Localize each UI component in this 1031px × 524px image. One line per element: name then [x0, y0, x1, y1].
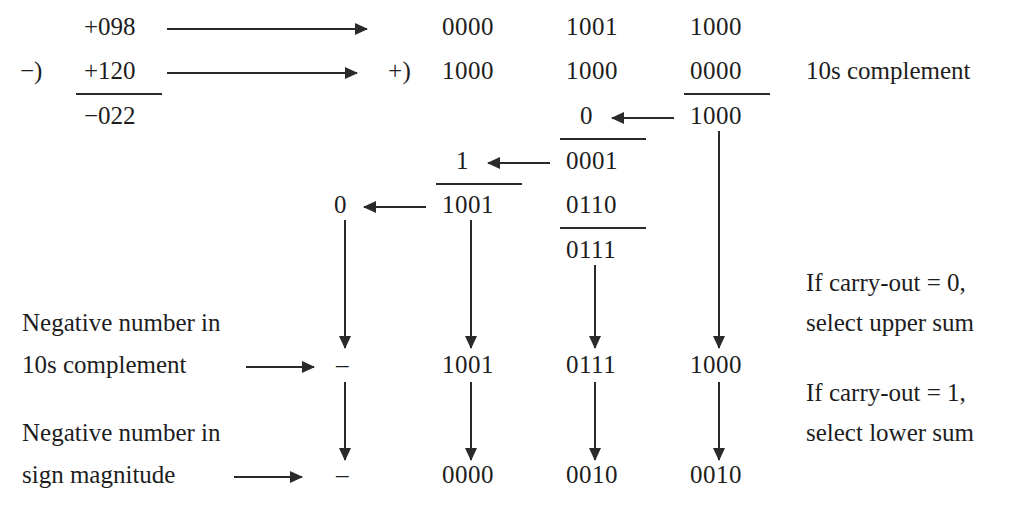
- decimal-subtrahend: +120: [84, 58, 136, 83]
- flow-arrow-sign-to-10s: [344, 220, 346, 348]
- flow-arrow-digit1-to-10s: [470, 220, 472, 348]
- result-10s-digit1: 1001: [442, 352, 494, 377]
- final-carry-out: 0: [334, 192, 347, 217]
- result-10s-sign: –: [336, 352, 349, 377]
- label-negative-sm-line2: sign magnitude: [22, 462, 175, 487]
- binary-row1-digit2: 1001: [566, 14, 618, 39]
- flow-arrow-digit3-to-sm: [718, 382, 720, 460]
- label-10s-complement: 10s complement: [806, 58, 971, 83]
- note-carry0-line2: select upper sum: [806, 310, 974, 335]
- digit1-sum: 1001: [442, 192, 494, 217]
- digit1-sum-bar: [436, 183, 522, 185]
- result-sm-digit1: 0000: [442, 462, 494, 487]
- arrow-minuend-to-binary: [167, 28, 367, 30]
- result-sm-digit3: 0010: [690, 462, 742, 487]
- flow-arrow-digit1-to-sm: [470, 382, 472, 460]
- result-sm-digit2: 0010: [566, 462, 618, 487]
- binary-row1-digit3: 1000: [690, 14, 742, 39]
- binary-row2-digit1: 1000: [442, 58, 494, 83]
- decimal-sum-bar: [76, 93, 162, 95]
- note-carry1-line1: If carry-out = 1,: [806, 380, 966, 405]
- digit3-sum-bar: [684, 93, 770, 95]
- binary-row1-digit1: 0000: [442, 14, 494, 39]
- arrow-final-carry-out: [364, 206, 426, 208]
- binary-plus-operator: +): [388, 58, 411, 83]
- digit3-sum: 1000: [690, 103, 742, 128]
- digit2-upper-sum: 0001: [566, 148, 618, 173]
- flow-arrow-sign-to-sm: [344, 382, 346, 460]
- arrow-carry-digit2-to-digit1: [488, 162, 550, 164]
- arrow-label-to-sm-row: [234, 476, 302, 478]
- digit2-upper-sum-bar: [560, 138, 646, 140]
- decimal-minuend: +098: [84, 14, 136, 39]
- decimal-minus-operator: −): [20, 58, 42, 83]
- result-10s-digit2: 0111: [566, 352, 616, 377]
- label-negative-sm-line1: Negative number in: [22, 420, 221, 445]
- digit2-lower-sum: 0111: [566, 237, 616, 262]
- digit2-lower-sum-bar: [560, 227, 646, 229]
- digit2-carry-out: 1: [456, 148, 469, 173]
- digit2-correction: 0110: [566, 192, 617, 217]
- label-negative-10s-line1: Negative number in: [22, 310, 221, 335]
- note-carry1-line2: select lower sum: [806, 420, 974, 445]
- flow-arrow-digit2-to-10s: [594, 265, 596, 348]
- figure-canvas: +098 −) +120 −022 +) 0000 1001 1000 1000…: [0, 0, 1031, 524]
- arrow-label-to-10s-row: [246, 366, 314, 368]
- note-carry0-line1: If carry-out = 0,: [806, 270, 966, 295]
- result-10s-digit3: 1000: [690, 352, 742, 377]
- binary-row2-digit2: 1000: [566, 58, 618, 83]
- binary-row2-digit3: 0000: [690, 58, 742, 83]
- flow-arrow-digit3-to-10s: [718, 131, 720, 348]
- label-negative-10s-line2: 10s complement: [22, 352, 187, 377]
- arrow-carry-digit3-to-digit2: [612, 117, 674, 119]
- arrow-subtrahend-to-binary: [167, 72, 357, 74]
- result-sm-sign: –: [336, 462, 349, 487]
- digit3-carry-out: 0: [580, 103, 593, 128]
- flow-arrow-digit2-to-sm: [594, 382, 596, 460]
- decimal-result: −022: [84, 103, 136, 128]
